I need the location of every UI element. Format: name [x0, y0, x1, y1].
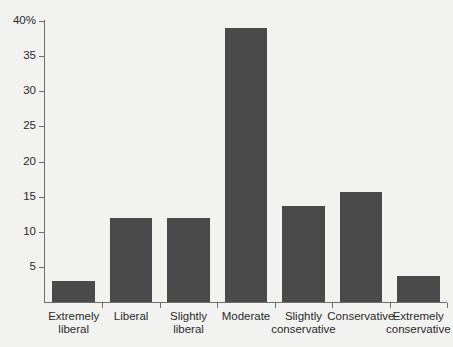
x-axis-label-line1: Extremely — [48, 310, 99, 322]
bar-chart: 510152025303540% ExtremelyliberalLiberal… — [0, 0, 453, 347]
y-axis-label: 40% — [13, 15, 36, 27]
y-axis-tick — [39, 21, 44, 22]
y-axis-tick — [39, 267, 44, 268]
y-axis-label: 25 — [23, 120, 36, 132]
x-axis-line — [44, 302, 447, 303]
y-axis-tick — [39, 56, 44, 57]
y-axis-label: 5 — [30, 261, 36, 273]
y-axis-tick — [39, 91, 44, 92]
x-axis-label-line2: liberal — [154, 323, 223, 336]
bar — [52, 281, 94, 302]
x-axis-tick — [160, 303, 161, 308]
y-axis-tick — [39, 162, 44, 163]
y-axis-label: 30 — [23, 85, 36, 97]
x-axis-label: Extremelyconservative — [384, 310, 453, 336]
x-axis-tick — [447, 303, 448, 308]
y-axis-label: 10 — [23, 226, 36, 238]
bar — [340, 192, 382, 302]
x-axis-label-line1: Liberal — [114, 310, 149, 322]
y-axis-label: 15 — [23, 191, 36, 203]
x-axis-label-line1: Slightly — [170, 310, 207, 322]
cropped-title-remnant — [0, 0, 453, 9]
y-axis-label: 35 — [23, 50, 36, 62]
x-axis-label-line1: Extremely — [393, 310, 444, 322]
x-axis-label-line2: conservative — [384, 323, 453, 336]
y-axis-label: 20 — [23, 156, 36, 168]
x-axis-label-line1: Slightly — [285, 310, 322, 322]
x-axis-label-line1: Moderate — [222, 310, 271, 322]
x-axis-label-line2: liberal — [39, 323, 108, 336]
bar — [397, 276, 439, 302]
y-axis-tick — [39, 232, 44, 233]
x-axis-tick — [390, 303, 391, 308]
x-axis-tick — [217, 303, 218, 308]
x-axis-label-line2: conservative — [269, 323, 338, 336]
y-axis-tick — [39, 126, 44, 127]
y-axis-line — [44, 20, 45, 303]
bar — [110, 218, 152, 302]
bar — [282, 206, 324, 302]
bar — [167, 218, 209, 302]
bar — [225, 28, 267, 302]
x-axis-tick — [332, 303, 333, 308]
x-axis-tick — [275, 303, 276, 308]
y-axis-tick — [39, 197, 44, 198]
x-axis-tick — [102, 303, 103, 308]
